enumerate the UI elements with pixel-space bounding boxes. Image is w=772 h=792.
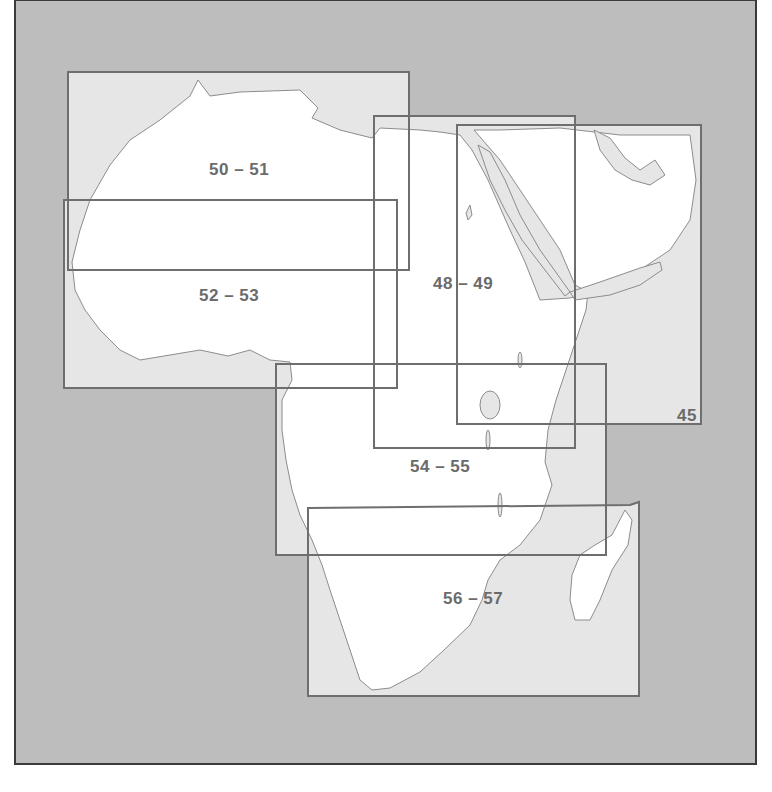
sheet-label-54-55[interactable]: 54 – 55 [410, 457, 470, 477]
sheet-label-56-57[interactable]: 56 – 57 [443, 589, 503, 609]
sheet-label-50-51[interactable]: 50 – 51 [209, 160, 269, 180]
sheet-label-52-53[interactable]: 52 – 53 [199, 286, 259, 306]
africa-index-map [0, 0, 772, 792]
map-frame: 50 – 51 52 – 53 48 – 49 45 54 – 55 56 – … [0, 0, 772, 792]
sheet-label-48-49[interactable]: 48 – 49 [433, 274, 493, 294]
sheet-label-45[interactable]: 45 [677, 406, 697, 426]
